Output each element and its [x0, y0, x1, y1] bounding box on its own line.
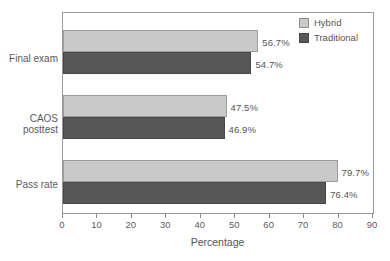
x-axis-title: Percentage: [62, 236, 373, 248]
x-tick-20: [131, 213, 132, 218]
x-tick-30: [165, 213, 166, 218]
category-axis-labels: Final exam CAOS posttest Pass rate: [0, 12, 58, 212]
x-tick-10: [96, 213, 97, 218]
value-label-final-exam-traditional: 54.7%: [255, 59, 282, 70]
x-tick-label-80: 80: [332, 219, 343, 230]
legend: Hybrid Traditional: [299, 16, 375, 46]
x-tick-60: [269, 213, 270, 218]
legend-swatch-traditional-icon: [299, 33, 309, 43]
legend-item-hybrid: Hybrid: [299, 16, 375, 29]
bar-chart: Final exam CAOS posttest Pass rate 56.7%…: [0, 0, 390, 261]
x-tick-label-40: 40: [194, 219, 205, 230]
x-tick-label-30: 30: [160, 219, 171, 230]
x-tick-80: [338, 213, 339, 218]
x-tick-label-50: 50: [229, 219, 240, 230]
value-label-pass-rate-hybrid: 79.7%: [342, 167, 369, 178]
x-tick-label-10: 10: [91, 219, 102, 230]
category-label-pass-rate: Pass rate: [2, 179, 58, 190]
legend-label-traditional: Traditional: [314, 32, 358, 43]
legend-item-traditional: Traditional: [299, 31, 375, 44]
category-label-final-exam: Final exam: [2, 53, 58, 64]
value-label-final-exam-hybrid: 56.7%: [262, 37, 289, 48]
category-label-caos-line1: CAOS: [2, 113, 58, 124]
value-label-caos-posttest-hybrid: 47.5%: [231, 102, 258, 113]
x-tick-70: [303, 213, 304, 218]
x-axis-tick-labels: 0102030405060708090: [62, 219, 373, 233]
legend-swatch-hybrid-icon: [299, 18, 309, 28]
x-tick-label-20: 20: [126, 219, 137, 230]
x-tick-label-0: 0: [59, 219, 64, 230]
value-label-pass-rate-traditional: 76.4%: [330, 189, 357, 200]
x-tick-50: [234, 213, 235, 218]
x-tick-40: [200, 213, 201, 218]
value-label-caos-posttest-traditional: 46.9%: [229, 124, 256, 135]
x-tick-90: [372, 213, 373, 218]
category-label-caos-line2: posttest: [2, 124, 58, 135]
legend-label-hybrid: Hybrid: [314, 17, 341, 28]
x-tick-0: [62, 213, 63, 218]
x-tick-label-70: 70: [298, 219, 309, 230]
x-tick-label-60: 60: [263, 219, 274, 230]
x-tick-label-90: 90: [367, 219, 378, 230]
